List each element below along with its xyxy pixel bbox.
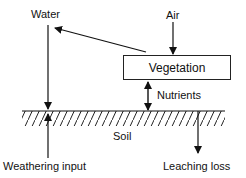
nutrients-label: Nutrients xyxy=(157,89,201,101)
soil-label: Soil xyxy=(113,130,131,142)
weathering-input-label: Weathering input xyxy=(3,160,86,172)
water-label: Water xyxy=(31,8,60,20)
vegetation-to-water-arrow xyxy=(55,28,146,52)
air-label: Air xyxy=(166,9,179,21)
leaching-loss-label: Leaching loss xyxy=(163,160,230,172)
soil-layer xyxy=(22,111,225,126)
vegetation-box: Vegetation xyxy=(123,55,231,80)
diagram-canvas xyxy=(0,0,246,178)
